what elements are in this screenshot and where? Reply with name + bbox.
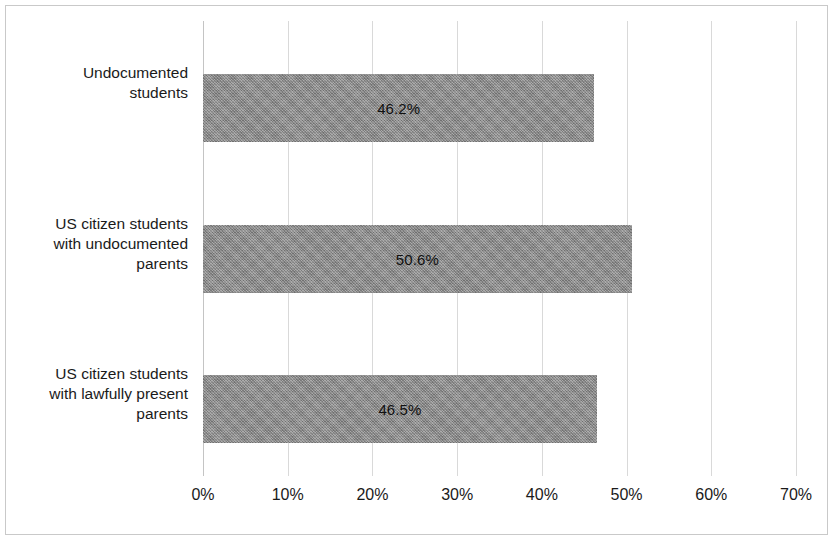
bar-value-label: 46.2%	[377, 100, 420, 117]
category-label-us-citizen-undocumented-parents: US citizen students with undocumented pa…	[6, 214, 188, 274]
bar-value-label: 50.6%	[396, 251, 439, 268]
category-label-line: with undocumented	[6, 234, 188, 254]
category-label-line: parents	[6, 254, 188, 274]
x-tick-label: 10%	[272, 486, 304, 504]
category-label-line: US citizen students	[6, 364, 188, 384]
plot-area: 46.2%50.6%46.5%	[203, 21, 796, 476]
category-label-line: students	[6, 83, 188, 103]
category-label-line: US citizen students	[6, 214, 188, 234]
category-label-undocumented-students: Undocumented students	[6, 63, 188, 103]
x-tick-label: 70%	[780, 486, 812, 504]
x-tick-label: 0%	[191, 486, 214, 504]
bar-slot: 46.5%	[203, 375, 796, 443]
x-tick-label: 60%	[695, 486, 727, 504]
bar-slot: 46.2%	[203, 74, 796, 142]
category-label-line: Undocumented	[6, 63, 188, 83]
bar-value-label: 46.5%	[378, 401, 421, 418]
chart-frame: Undocumented students US citizen student…	[5, 5, 828, 535]
category-label-line: with lawfully present	[6, 384, 188, 404]
category-label-us-citizen-lawfully-present-parents: US citizen students with lawfully presen…	[6, 364, 188, 424]
x-tick-label: 50%	[611, 486, 643, 504]
bars-layer: 46.2%50.6%46.5%	[203, 21, 796, 476]
x-axis-tick-labels: 0%10%20%30%40%50%60%70%	[203, 486, 796, 516]
x-tick-label: 40%	[526, 486, 558, 504]
x-tick-label: 20%	[356, 486, 388, 504]
gridline-70pct	[796, 21, 797, 476]
x-tick-label: 30%	[441, 486, 473, 504]
category-axis-labels: Undocumented students US citizen student…	[6, 21, 196, 476]
category-label-line: parents	[6, 404, 188, 424]
bar-slot: 50.6%	[203, 225, 796, 293]
